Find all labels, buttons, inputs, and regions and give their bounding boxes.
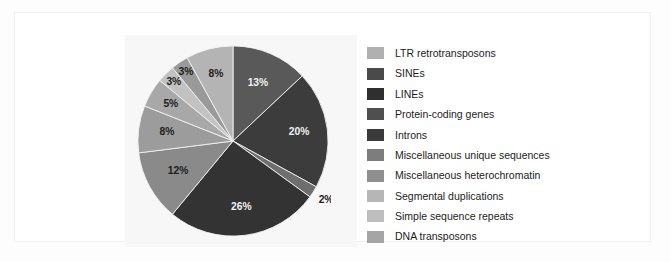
pie-slice-value-label: 5% xyxy=(163,98,178,109)
legend-item[interactable]: SINEs xyxy=(367,63,657,83)
legend-color-swatch xyxy=(367,88,384,100)
legend-item-label: DNA transposons xyxy=(395,231,477,242)
legend-item-label: Protein-coding genes xyxy=(395,109,494,120)
legend-color-swatch xyxy=(367,170,384,182)
pie-slice-value-label: 3% xyxy=(166,76,181,87)
pie-slice-value-label: 13% xyxy=(248,77,269,88)
legend-color-swatch xyxy=(367,231,384,243)
pie-chart-svg: 13%20%2%26%12%8%5%3%3%8% xyxy=(135,43,331,239)
pie-slice-value-label: 20% xyxy=(289,126,310,137)
legend-item-label: Simple sequence repeats xyxy=(395,211,514,222)
pie-slice-value-label: 12% xyxy=(168,165,189,176)
legend-item-label: LINEs xyxy=(395,89,424,100)
figure-frame: 13%20%2%26%12%8%5%3%3%8% LTR retrotransp… xyxy=(14,12,651,242)
legend-color-swatch xyxy=(367,129,384,141)
legend-color-swatch xyxy=(367,68,384,80)
chart-legend: LTR retrotransposonsSINEsLINEsProtein-co… xyxy=(367,43,657,249)
legend-item-label: Segmental duplications xyxy=(395,191,504,202)
pie-slice-value-label: 8% xyxy=(160,126,175,137)
pie-slice-value-label: 3% xyxy=(179,66,194,77)
legend-item-label: Miscellaneous heterochromatin xyxy=(395,170,540,181)
legend-color-swatch xyxy=(367,149,384,161)
pie-slice-value-label: 8% xyxy=(209,68,224,79)
legend-item[interactable]: LTR retrotransposons xyxy=(367,43,657,63)
legend-item[interactable]: Segmental duplications xyxy=(367,186,657,206)
legend-color-swatch xyxy=(367,108,384,120)
legend-item[interactable]: Introns xyxy=(367,125,657,145)
legend-item[interactable]: Protein-coding genes xyxy=(367,104,657,124)
legend-item[interactable]: Miscellaneous heterochromatin xyxy=(367,165,657,185)
legend-color-swatch xyxy=(367,210,384,222)
legend-item-label: Miscellaneous unique sequences xyxy=(395,150,550,161)
legend-item-label: SINEs xyxy=(395,68,425,79)
legend-item[interactable]: LINEs xyxy=(367,84,657,104)
legend-color-swatch xyxy=(367,190,384,202)
legend-color-swatch xyxy=(367,47,384,59)
legend-item[interactable]: DNA transposons xyxy=(367,227,657,247)
pie-slice-value-label: 26% xyxy=(231,201,252,212)
figure-root: 13%20%2%26%12%8%5%3%3%8% LTR retrotransp… xyxy=(0,0,671,262)
pie-slice-value-label: 2% xyxy=(319,194,331,205)
legend-item[interactable]: Simple sequence repeats xyxy=(367,206,657,226)
pie-chart-panel: 13%20%2%26%12%8%5%3%3%8% xyxy=(125,35,357,247)
pie-chart: 13%20%2%26%12%8%5%3%3%8% xyxy=(135,43,331,239)
legend-item-label: LTR retrotransposons xyxy=(395,48,496,59)
legend-item-label: Introns xyxy=(395,130,427,141)
legend-item[interactable]: Miscellaneous unique sequences xyxy=(367,145,657,165)
